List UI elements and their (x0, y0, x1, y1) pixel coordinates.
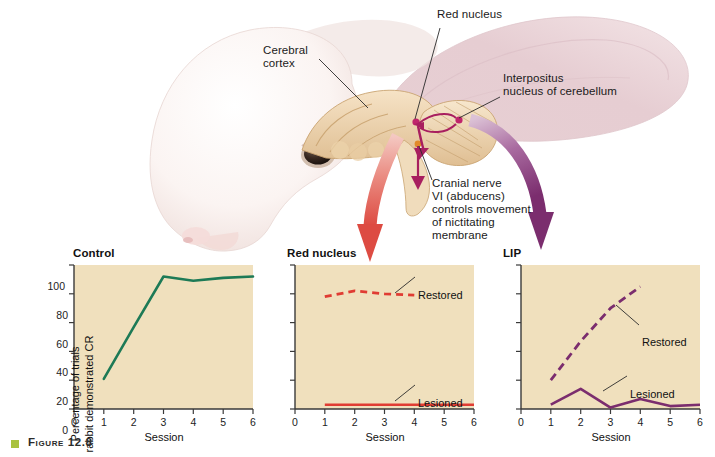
xtick-5-lip: 5 (661, 416, 679, 428)
ytick-60: 60 (46, 338, 68, 350)
ytick-40: 40 (46, 366, 68, 378)
annotation-cerebral-cortex: Cerebral cortex (263, 44, 308, 70)
caption-marker-icon (11, 440, 19, 448)
x-axis-title-red-nucleus: Session (345, 431, 425, 443)
xtick-4-lip: 4 (631, 416, 649, 428)
xtick-3-lip: 3 (602, 416, 620, 428)
xtick-2-lip: 2 (572, 416, 590, 428)
chart-title-control: Control (73, 247, 115, 259)
chart-panel-control: Control Percentage of trials rabbit demo… (48, 243, 268, 433)
illustration-svg (0, 0, 715, 265)
legend-lesioned-lip: Lesioned (630, 388, 675, 400)
rabbit-brain-illustration: Cerebral cortex Red nucleus Interpositus… (0, 0, 715, 265)
xtick-0-lip: 0 (512, 416, 530, 428)
chart-panel-lip: LIP (503, 243, 708, 433)
plot-area-red-nucleus (295, 265, 474, 409)
ytick-100: 100 (43, 280, 65, 292)
ytick-80: 80 (46, 309, 68, 321)
ytick-20: 20 (46, 395, 68, 407)
xtick-6-red: 6 (465, 416, 483, 428)
xtick-2-red: 2 (346, 416, 364, 428)
y-axis-title-line2: rabbit demonstrated CR (83, 336, 95, 453)
legend-lesioned-red: Lesioned (418, 397, 463, 409)
plot-area-control (74, 265, 253, 409)
x-axis-title-lip: Session (571, 431, 651, 443)
xtick-3-red: 3 (376, 416, 394, 428)
xtick-6: 6 (244, 416, 262, 428)
chart-title-lip: LIP (503, 247, 521, 259)
xtick-0-red: 0 (286, 416, 304, 428)
annotation-interpositus-nucleus: Interpositus nucleus of cerebellum (503, 72, 617, 98)
figure-caption-label: Figure 12.8 (28, 436, 93, 448)
xtick-1: 1 (95, 416, 113, 428)
xtick-4: 4 (184, 416, 202, 428)
xtick-6-lip: 6 (691, 416, 709, 428)
xtick-0: 0 (65, 416, 83, 428)
figure-12-8: Cerebral cortex Red nucleus Interpositus… (0, 0, 715, 457)
xtick-4-red: 4 (405, 416, 423, 428)
xtick-1-lip: 1 (542, 416, 560, 428)
chart-title-red-nucleus: Red nucleus (287, 247, 356, 259)
xtick-3: 3 (155, 416, 173, 428)
xtick-5: 5 (214, 416, 232, 428)
chart-panel-red-nucleus: Red nucleus (287, 243, 487, 433)
annotation-red-nucleus: Red nucleus (437, 8, 502, 21)
xtick-1-red: 1 (316, 416, 334, 428)
legend-restored-red: Restored (418, 289, 463, 301)
annotation-cranial-nerve: Cranial nerve VI (abducens) controls mov… (432, 177, 531, 242)
x-axis-title-control: Session (124, 431, 204, 443)
xtick-5-red: 5 (435, 416, 453, 428)
legend-restored-lip: Restored (642, 336, 687, 348)
xtick-2: 2 (125, 416, 143, 428)
